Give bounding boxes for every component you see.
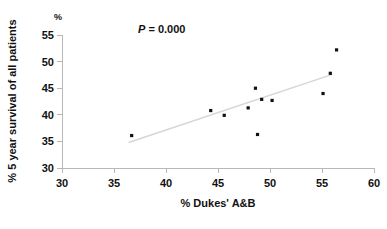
y-tick-label-40: 40 <box>42 109 54 121</box>
x-tick-label-35: 35 <box>108 177 120 189</box>
y-tick-label-55: 55 <box>42 29 54 41</box>
x-axis-title: % Dukes' A&B <box>181 197 256 209</box>
x-tick-label-60: 60 <box>368 177 380 189</box>
y-tick-label-30: 30 <box>42 162 54 174</box>
data-point <box>254 87 257 90</box>
data-point <box>223 114 226 117</box>
data-point <box>335 48 338 51</box>
y-tick-label-50: 50 <box>42 56 54 68</box>
chart-canvas: 55 50 45 40 35 30 30 35 40 45 50 55 60 %… <box>0 0 387 229</box>
data-points-layer <box>130 48 338 137</box>
p-value-number: = 0.000 <box>145 23 185 35</box>
y-tick-label-45: 45 <box>42 82 54 94</box>
data-point <box>270 99 273 102</box>
y-axis-group: 55 50 45 40 35 30 <box>42 29 62 174</box>
x-tick-label-45: 45 <box>212 177 224 189</box>
x-tick-label-55: 55 <box>316 177 328 189</box>
data-point <box>247 106 250 109</box>
x-tick-label-30: 30 <box>56 177 68 189</box>
x-tick-label-50: 50 <box>264 177 276 189</box>
data-point <box>260 98 263 101</box>
y-axis-unit-label: % <box>54 12 62 22</box>
y-axis-title: % 5 year survival of all patients <box>6 19 18 182</box>
trend-line <box>129 74 333 142</box>
data-point <box>321 92 324 95</box>
y-tick-label-35: 35 <box>42 135 54 147</box>
data-point <box>130 134 133 137</box>
data-point <box>256 133 259 136</box>
x-tick-label-40: 40 <box>160 177 172 189</box>
data-point <box>209 109 212 112</box>
p-value-annotation: P = 0.000 <box>138 23 185 35</box>
x-axis-group: 30 35 40 45 50 55 60 <box>56 168 380 189</box>
scatter-plot-figure: 55 50 45 40 35 30 30 35 40 45 50 55 60 %… <box>0 0 387 229</box>
data-point <box>329 72 332 75</box>
